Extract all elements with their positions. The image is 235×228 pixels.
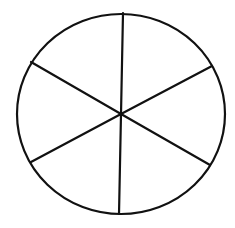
divided-circle-diagram bbox=[0, 0, 235, 228]
